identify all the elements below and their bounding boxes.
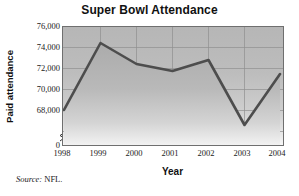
x-tick-label-2000: 2000 [114, 149, 154, 158]
x-tick-label-2003: 2003 [222, 149, 262, 158]
source-note-value: NFL. [44, 174, 62, 184]
y-axis-title-label: Paid attendance [4, 50, 15, 123]
x-tick-label-1999: 1999 [78, 149, 118, 158]
x-axis-title: Year [60, 166, 285, 177]
y-axis-tick-labels: 76,000 74,000 72,000 70,000 68,000 0 [16, 0, 60, 196]
x-tick-label-2004: 2004 [257, 149, 297, 158]
chart-figure: Super Bowl Attendance Paid attendance 76… [0, 0, 299, 196]
series-area-paid-attendance [64, 43, 280, 145]
y-tick-label-74000: 74,000 [16, 43, 60, 52]
source-note-label: Source: [16, 174, 42, 184]
y-tick-label-72000: 72,000 [16, 64, 60, 73]
x-tick-label-2002: 2002 [186, 149, 226, 158]
x-tick-label-2001: 2001 [150, 149, 190, 158]
y-tick-label-68000: 68,000 [16, 106, 60, 115]
source-note: Source: NFL. [16, 174, 62, 184]
plot-svg [63, 27, 283, 145]
y-tick-label-70000: 70,000 [16, 85, 60, 94]
y-tick-label-76000: 76,000 [16, 22, 60, 31]
x-tick-label-1998: 1998 [42, 149, 82, 158]
plot-area [62, 26, 284, 146]
y-axis-title: Paid attendance [2, 30, 16, 142]
